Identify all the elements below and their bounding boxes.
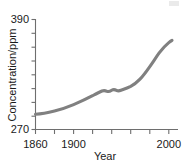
x-axis-ticks xyxy=(36,130,169,135)
y-tick-label-max: 390 xyxy=(11,13,29,25)
y-tick-label-min: 270 xyxy=(11,123,29,135)
x-axis-title: Year xyxy=(94,150,117,162)
chart-plot-area: 390 270 1860 1900 2000 Year Concentratio… xyxy=(0,0,187,164)
y-axis-title: Concentration/ppm xyxy=(6,29,18,122)
co2-data-line xyxy=(36,40,173,114)
x-tick-label-mid: 1900 xyxy=(61,138,85,150)
x-tick-label-last: 2000 xyxy=(157,138,181,150)
x-tick-label-first: 1860 xyxy=(23,138,47,150)
co2-concentration-chart: 390 270 1860 1900 2000 Year Concentratio… xyxy=(0,0,187,164)
